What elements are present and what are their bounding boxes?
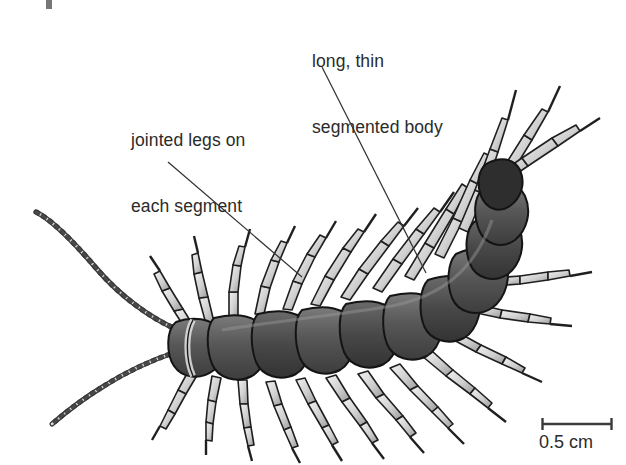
scale-bar-caption: 0.5 cm xyxy=(539,432,593,453)
centipede-diagram: long, thin segmented body jointed legs o… xyxy=(0,0,626,465)
scale-bar xyxy=(0,0,626,465)
